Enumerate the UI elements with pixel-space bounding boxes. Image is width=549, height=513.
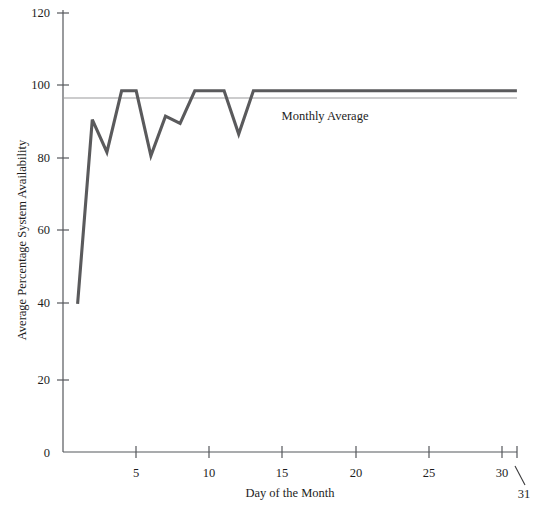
x-tick-label-5: 5 — [133, 466, 139, 480]
x-tick-label-20: 20 — [350, 466, 363, 480]
x-axis-tick-labels: 5 10 15 20 25 30 — [133, 466, 508, 480]
availability-chart: 120 100 80 60 40 20 0 5 10 15 20 25 30 — [0, 0, 549, 513]
y-axis-title: Average Percentage System Availability — [15, 139, 29, 340]
x-tick-label-15: 15 — [276, 466, 289, 480]
x-tick-label-31: 31 — [518, 487, 531, 501]
y-tick-label-120: 120 — [31, 6, 50, 20]
monthly-average-label: Monthly Average — [282, 109, 369, 123]
y-tick-label-80: 80 — [38, 151, 51, 165]
y-tick-label-100: 100 — [31, 78, 50, 92]
y-tick-label-60: 60 — [38, 223, 51, 237]
y-tick-label-0: 0 — [44, 446, 50, 460]
day-31-leader-line — [515, 466, 525, 485]
x-tick-label-25: 25 — [423, 466, 436, 480]
x-tick-label-30: 30 — [496, 466, 509, 480]
y-axis-tick-labels: 120 100 80 60 40 20 0 — [31, 6, 50, 460]
y-tick-label-40: 40 — [38, 296, 51, 310]
x-axis-title: Day of the Month — [245, 486, 335, 500]
chart-canvas: 120 100 80 60 40 20 0 5 10 15 20 25 30 — [0, 0, 549, 513]
y-tick-label-20: 20 — [38, 373, 51, 387]
x-tick-label-10: 10 — [203, 466, 216, 480]
